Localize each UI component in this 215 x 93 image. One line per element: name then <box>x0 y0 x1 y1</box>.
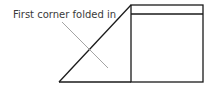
fold-diagram: First corner folded in <box>0 0 215 93</box>
label-leader-line <box>62 22 108 68</box>
sheet-rectangle <box>131 5 203 82</box>
corner-label: First corner folded in <box>13 9 116 20</box>
